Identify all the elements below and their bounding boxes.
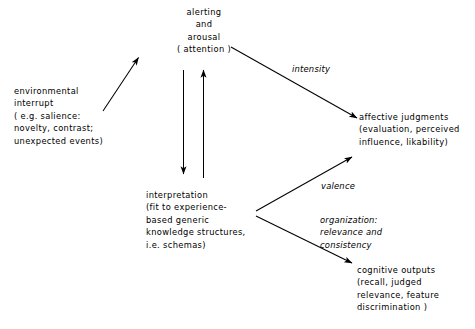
node-cognitive-outputs: cognitive outputs (recall, judged releva… <box>357 264 473 314</box>
edge-label-intensity: intensity <box>292 63 330 75</box>
edge-label-organization: organization: relevance and consistency <box>320 214 382 251</box>
edge-label-valence: valence <box>321 180 355 192</box>
node-alerting-arousal: alerting and arousal ( attention ) <box>160 6 248 56</box>
node-affective-judgments: affective judgments (evaluation, perceiv… <box>359 111 475 148</box>
diagram-canvas: alerting and arousal ( attention ) envir… <box>0 0 475 329</box>
node-interpretation: interpretation (fit to experience- based… <box>146 189 264 251</box>
node-environmental-interrupt: environmental interrupt ( e.g. salience:… <box>14 85 134 147</box>
arrow-alerting-to-affective <box>231 47 357 118</box>
